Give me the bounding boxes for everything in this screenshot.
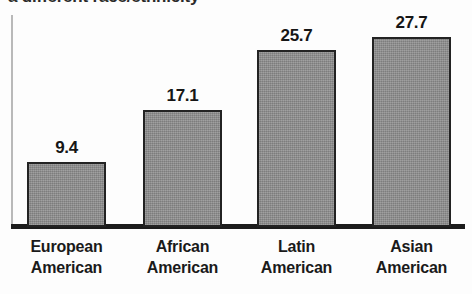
bar-group-0: 9.4 [27,136,106,227]
bar-value-label: 9.4 [27,138,106,158]
bar-value-label: 25.7 [257,26,336,46]
bar-value-label: 27.7 [372,13,451,33]
bar-chart-figure: a different race/ethnicity 9.4 17.1 25.7… [0,0,472,294]
clipped-title-strip: a different race/ethnicity [0,0,472,11]
category-label-line: Asian [354,236,469,257]
category-label-2: Latin American [239,236,354,278]
category-label-line: European [9,236,124,257]
bar-value-label: 17.1 [143,86,222,106]
category-label-0: European American [9,236,124,278]
bar-group-2: 25.7 [257,24,336,227]
bar-rect[interactable] [257,50,336,227]
category-label-line: American [239,257,354,278]
category-label-line: American [354,257,469,278]
category-label-line: American [9,257,124,278]
bar-rect[interactable] [372,37,451,227]
clipped-title-text: a different race/ethnicity [8,0,199,7]
category-axis: European American African American Latin… [0,236,472,294]
category-label-line: American [125,257,240,278]
plot-area: 9.4 17.1 25.7 27.7 [0,11,472,232]
category-label-3: Asian American [354,236,469,278]
category-label-1: African American [125,236,240,278]
category-label-line: Latin [239,236,354,257]
bar-group-3: 27.7 [372,11,451,227]
bar-rect[interactable] [143,110,222,227]
y-axis-line [11,15,13,228]
category-label-line: African [125,236,240,257]
bar-group-1: 17.1 [143,84,222,227]
bar-rect[interactable] [27,162,106,227]
